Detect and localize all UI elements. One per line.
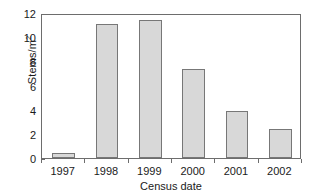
bar-1998 (96, 24, 119, 158)
x-axis-tick-mark (171, 159, 172, 163)
y-axis-tick-label: 12 (6, 9, 36, 19)
y-axis-tick-label: 6 (6, 82, 36, 92)
y-axis-tick-label: 4 (6, 106, 36, 116)
bar-chart-figure: Stems/m2 024681012 199719981999200020012… (0, 0, 319, 195)
x-axis-tick-label-1998: 1998 (84, 165, 128, 178)
bar-2002 (269, 129, 292, 158)
bar-1997 (52, 153, 75, 158)
x-axis-label: Census date (41, 180, 301, 193)
x-axis-tick-mark (258, 159, 259, 163)
y-axis-tick-label: 2 (6, 130, 36, 140)
x-axis-tick-mark (128, 159, 129, 163)
x-axis-tick-label-2001: 2001 (214, 165, 258, 178)
x-axis-tick-mark (84, 159, 85, 163)
y-axis-tick-label: 0 (6, 154, 36, 164)
y-axis-tick-label: 10 (6, 33, 36, 43)
x-axis-tick-label-1999: 1999 (127, 165, 171, 178)
x-axis-tick-mark (41, 159, 42, 163)
x-axis-tick-mark (301, 159, 302, 163)
bar-2000 (182, 69, 205, 158)
x-axis-tick-label-2002: 2002 (257, 165, 301, 178)
x-axis-tick-mark (214, 159, 215, 163)
bar-2001 (226, 111, 249, 158)
x-axis-tick-label-1997: 1997 (41, 165, 85, 178)
x-axis-tick-label-2000: 2000 (171, 165, 215, 178)
y-axis-tick-label: 8 (6, 57, 36, 67)
bar-1999 (139, 20, 162, 158)
plot-area (41, 14, 301, 159)
